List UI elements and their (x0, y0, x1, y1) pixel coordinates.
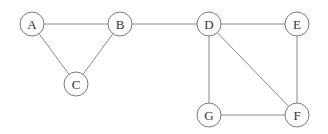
node-g: G (197, 103, 221, 127)
edges-layer (32, 24, 297, 115)
node-label: C (72, 77, 81, 92)
node-label: F (293, 108, 300, 123)
node-a: A (20, 12, 44, 36)
graph-diagram: ABCDEFG (0, 0, 328, 134)
node-f: F (285, 103, 309, 127)
node-label: B (116, 17, 125, 32)
node-label: E (293, 17, 301, 32)
node-e: E (285, 12, 309, 36)
nodes-layer: ABCDEFG (20, 12, 309, 127)
node-c: C (64, 72, 88, 96)
node-label: G (204, 108, 213, 123)
node-d: D (197, 12, 221, 36)
node-label: A (27, 17, 37, 32)
node-label: D (204, 17, 213, 32)
node-b: B (108, 12, 132, 36)
edge-d-f (209, 24, 297, 115)
